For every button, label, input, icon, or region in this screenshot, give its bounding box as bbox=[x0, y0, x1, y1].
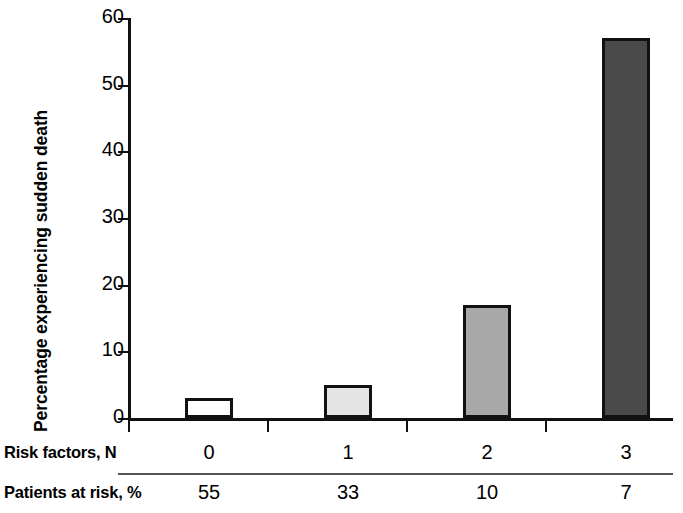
y-tick-label: 30 bbox=[102, 206, 124, 226]
bar-2 bbox=[463, 305, 511, 418]
table-cell: 10 bbox=[476, 481, 498, 504]
x-tick-mark bbox=[267, 421, 269, 432]
x-tick-mark bbox=[128, 421, 130, 432]
plot-area: 6050403020100 bbox=[128, 18, 673, 421]
y-tick-label: 20 bbox=[102, 273, 124, 293]
row-label-risk-factors: Risk factors, N bbox=[4, 443, 117, 462]
y-tick-label: 0 bbox=[113, 406, 124, 426]
y-tick-label: 50 bbox=[102, 73, 124, 93]
table-cell: 0 bbox=[203, 441, 214, 464]
row-label-patients-at-risk: Patients at risk, % bbox=[4, 483, 141, 502]
table-cell: 1 bbox=[342, 441, 353, 464]
y-tick-label: 60 bbox=[102, 6, 124, 26]
y-tick-label: 10 bbox=[102, 339, 124, 359]
table-cell: 3 bbox=[620, 441, 631, 464]
data-table: Risk factors, N 0123 Patients at risk, %… bbox=[0, 437, 683, 513]
y-tick-label: 40 bbox=[102, 139, 124, 159]
bar-chart-figure: Percentage experiencing sudden death 605… bbox=[0, 0, 683, 513]
bar-0 bbox=[185, 398, 233, 418]
x-tick-mark bbox=[406, 421, 408, 432]
x-axis-line bbox=[128, 418, 673, 421]
table-cell: 2 bbox=[481, 441, 492, 464]
table-cell: 7 bbox=[620, 481, 631, 504]
y-axis-title-container: Percentage experiencing sudden death bbox=[0, 0, 36, 440]
bar-3 bbox=[602, 38, 650, 418]
table-row: Patients at risk, % 5533107 bbox=[0, 477, 683, 513]
table-cell: 33 bbox=[337, 481, 359, 504]
table-row: Risk factors, N 0123 bbox=[0, 437, 683, 473]
bar-1 bbox=[324, 385, 372, 418]
y-axis-title: Percentage experiencing sudden death bbox=[31, 110, 52, 432]
table-divider bbox=[118, 473, 673, 475]
y-axis-line bbox=[128, 18, 131, 421]
x-tick-mark bbox=[545, 421, 547, 432]
table-cell: 55 bbox=[198, 481, 220, 504]
